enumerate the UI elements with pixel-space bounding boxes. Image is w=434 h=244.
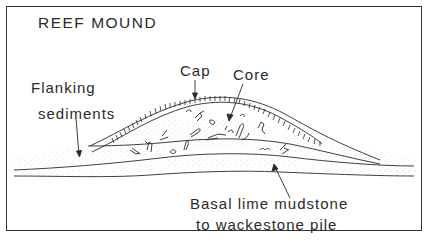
- basal-pile-label-line1: Basal lime mudstone: [190, 196, 348, 211]
- core-arrow: [230, 84, 243, 118]
- flanking-sediments-label-line2: sediments: [38, 106, 115, 121]
- flanking-sediments-label-line1: Flanking: [31, 80, 96, 95]
- basal-pile-label-line2: to wackestone pile: [196, 217, 337, 232]
- diagram-title: REEF MOUND: [38, 15, 157, 31]
- core-label: Core: [233, 67, 270, 82]
- cap-label: Cap: [180, 63, 211, 78]
